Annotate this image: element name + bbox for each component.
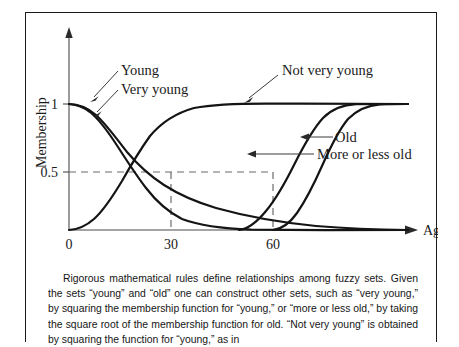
ytick-label-1: 1 bbox=[51, 97, 58, 112]
leader-very-young bbox=[97, 90, 118, 112]
annotation-label-not-very-young: Not very young bbox=[282, 62, 373, 78]
arrowhead-more-or-less-old bbox=[247, 151, 256, 158]
figure-frame: 0 30 60 0.5 1 Membership Age Young Very … bbox=[25, 12, 437, 342]
xtick-label-60: 60 bbox=[266, 237, 280, 252]
annotation-label-very-young: Very young bbox=[121, 81, 188, 97]
leader-not-very-young bbox=[249, 75, 278, 98]
annotation-label-young: Young bbox=[121, 62, 159, 78]
x-axis-title: Age bbox=[423, 223, 438, 238]
curve-young bbox=[69, 104, 408, 230]
chart-guide-lines bbox=[69, 172, 273, 230]
xtick-label-30: 30 bbox=[164, 237, 178, 252]
chart-axes bbox=[63, 27, 418, 234]
arrowhead-not-very-young bbox=[244, 97, 253, 103]
chart-series-curves bbox=[69, 104, 408, 231]
membership-function-chart: 0 30 60 0.5 1 Membership Age Young Very … bbox=[26, 13, 438, 261]
curve-not-very-young bbox=[69, 104, 408, 230]
xtick-label-0: 0 bbox=[66, 237, 73, 252]
annotation-label-old: Old bbox=[335, 129, 358, 145]
curve-very-young bbox=[69, 104, 408, 230]
chart-plot-area: 0 30 60 0.5 1 Membership Age Young Very … bbox=[26, 13, 438, 261]
y-axis-title: Membership bbox=[34, 97, 49, 168]
annotation-label-more-or-less-old: More or less old bbox=[317, 146, 412, 162]
curve-more-or-less-old bbox=[239, 104, 408, 230]
figure-caption: Rigorous mathematical rules define relat… bbox=[48, 271, 418, 347]
arrowhead-old bbox=[300, 134, 309, 141]
y-axis-arrowhead bbox=[65, 27, 72, 38]
caption-text: Rigorous mathematical rules define relat… bbox=[48, 273, 418, 345]
